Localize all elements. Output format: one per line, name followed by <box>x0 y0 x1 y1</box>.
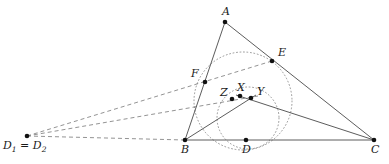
point-dot-C <box>372 138 377 143</box>
dashed-D12-to-E <box>27 61 272 136</box>
point-label-B: B <box>181 144 189 155</box>
point-label-C: C <box>371 144 379 155</box>
point-dot-X <box>238 94 243 99</box>
d2-subscript: 2 <box>42 145 47 154</box>
cevian-X-to-C <box>236 95 374 140</box>
point-dot-B <box>183 138 188 143</box>
point-label-Y: Y <box>257 86 264 97</box>
point-dot-F <box>203 80 208 85</box>
point-dot-D12 <box>25 134 30 139</box>
point-label-Z: Z <box>220 87 228 98</box>
point-label-F: F <box>191 68 199 79</box>
geometry-figure: A B C D E F X Y Z D1 = D2 <box>0 0 389 164</box>
equals-sign: = <box>17 139 33 152</box>
point-label-D: D <box>242 144 251 155</box>
point-dot-A <box>223 20 228 25</box>
point-label-E: E <box>278 47 286 58</box>
point-dot-Z <box>230 97 235 102</box>
cevian-B-to-Y <box>185 95 256 140</box>
geometry-canvas <box>0 0 389 164</box>
point-dot-Y <box>249 96 254 101</box>
point-label-X: X <box>237 82 245 93</box>
incircle <box>194 52 292 150</box>
point-dot-E <box>270 59 275 64</box>
point-dot-D <box>244 138 249 143</box>
point-label-A: A <box>222 6 230 17</box>
dashed-D12-to-B <box>27 136 185 140</box>
d2-base: D <box>33 139 42 152</box>
d1-base: D <box>3 139 12 152</box>
side-AC <box>225 22 374 140</box>
point-label-D1-equals-D2: D1 = D2 <box>3 140 46 154</box>
